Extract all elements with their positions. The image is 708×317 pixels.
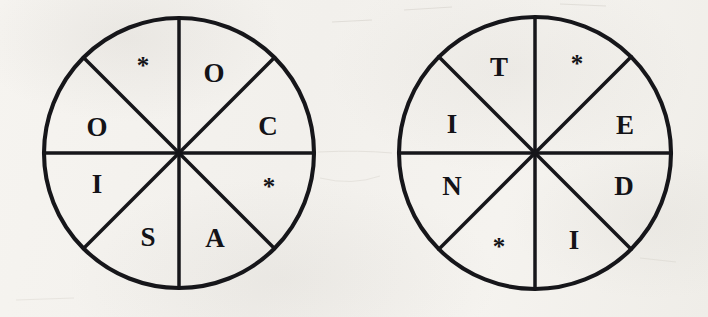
right-wheel-cell-top-right[interactable]: * — [571, 50, 584, 77]
left-wheel-cell-top-left[interactable]: * — [137, 52, 150, 79]
word-wheel-canvas: O C * A S I O * * E D I * N I T — [0, 0, 708, 317]
right-wheel-cell-bottom-left[interactable]: * — [493, 233, 506, 260]
left-wheel-cell-bottom-left[interactable]: S — [140, 222, 155, 252]
left-wheel-cell-right-lower[interactable]: * — [263, 173, 276, 200]
left-wheel-cell-top-right[interactable]: O — [203, 58, 224, 88]
right-wheel-cell-left-lower[interactable]: N — [442, 171, 462, 201]
left-wheel-cell-right-upper[interactable]: C — [258, 111, 278, 141]
right-wheel-cell-top-left[interactable]: T — [490, 52, 508, 82]
right-wheel-cell-left-upper[interactable]: I — [447, 109, 458, 139]
right-wheel-cell-right-lower[interactable]: D — [614, 171, 634, 201]
left-wheel-cell-left-lower[interactable]: I — [92, 169, 103, 199]
right-wheel-cell-bottom-right[interactable]: I — [569, 225, 580, 255]
left-word-wheel[interactable]: O C * A S I O * — [36, 9, 322, 297]
right-word-wheel[interactable]: * E D I * N I T — [392, 10, 678, 298]
left-wheel-cell-left-upper[interactable]: O — [86, 112, 107, 142]
right-wheel-cell-right-upper[interactable]: E — [616, 110, 634, 140]
left-wheel-cell-bottom-right[interactable]: A — [205, 223, 225, 253]
